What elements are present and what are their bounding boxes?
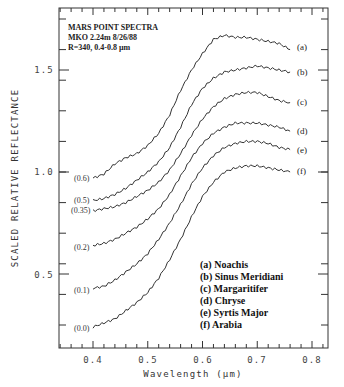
x-axis-title: Wavelength (µm)	[143, 369, 242, 379]
curve-label-b: (b)	[297, 67, 308, 77]
offset-label-f: (0.0)	[74, 324, 90, 333]
offset-label-e: (0.1)	[74, 286, 90, 295]
plot-frame	[59, 8, 328, 348]
spectrum-curve-b	[93, 65, 290, 200]
chart-title: MARS POINT SPECTRA	[68, 23, 158, 32]
chart-subtitle-instrument: MKO 2.24m 8/26/88	[68, 33, 137, 42]
y-tick-label: 1.5	[34, 65, 53, 75]
y-tick-label: 1.0	[34, 167, 53, 177]
legend: (a) Noachis (b) Sinus Meridiani (c) Marg…	[200, 259, 284, 331]
offset-label-b: (0.5)	[74, 196, 90, 205]
y-ticks	[59, 19, 328, 325]
spectrum-curve-e	[93, 140, 290, 289]
x-tick-label: 0.7	[247, 355, 266, 365]
legend-item-syrtis-major: (e) Syrtis Major	[200, 307, 269, 319]
chart-subtitle-resolution: R=340, 0.4-0.8 µm	[68, 43, 131, 52]
offset-label-d: (0.2)	[74, 243, 90, 252]
y-tick-label: 0.5	[34, 270, 53, 280]
curve-label-f: (f)	[297, 166, 306, 176]
curve-label-c: (c)	[297, 97, 307, 107]
offset-label-c: (0.35)	[71, 206, 91, 215]
spectrum-curve-c	[93, 91, 290, 211]
offset-label-a: (0.6)	[74, 174, 90, 183]
x-tick-label: 0.5	[138, 355, 157, 365]
x-tick-label: 0.4	[83, 355, 102, 365]
spectra-chart: 0.4 0.5 0.6 0.7 0.8 0.5 1.0 1.5 Waveleng…	[0, 0, 344, 387]
curve-label-a: (a)	[297, 42, 307, 52]
legend-item-noachis: (a) Noachis	[200, 259, 248, 271]
x-tick-label: 0.8	[302, 355, 321, 365]
legend-item-chryse: (d) Chryse	[200, 295, 246, 307]
x-ticks	[60, 8, 323, 348]
x-tick-label: 0.6	[193, 355, 212, 365]
legend-item-arabia: (f) Arabia	[200, 319, 242, 331]
legend-item-sinus-meridiani: (b) Sinus Meridiani	[200, 271, 284, 283]
spectrum-curve-a	[93, 35, 290, 178]
curve-label-d: (d)	[297, 126, 308, 136]
legend-item-margaritifer: (c) Margaritifer	[200, 283, 269, 295]
curve-label-e: (e)	[297, 145, 307, 155]
y-axis-title: SCALED RELATIVE REFLECTANCE	[10, 89, 20, 268]
